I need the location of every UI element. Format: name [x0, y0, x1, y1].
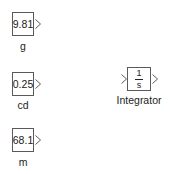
- block-label-cd[interactable]: cd: [17, 100, 28, 111]
- integrator-block[interactable]: 1 s: [127, 67, 151, 91]
- output-port-arrow-icon[interactable]: [35, 135, 41, 145]
- transfer-function: 1 s: [134, 69, 143, 90]
- model-canvas[interactable]: 9.81 g 0.25 cd 68.1 m 1 s Integrator: [0, 0, 173, 174]
- block-label-integrator[interactable]: Integrator: [117, 95, 162, 106]
- output-port-arrow-icon[interactable]: [35, 79, 41, 89]
- constant-block-m[interactable]: 68.1: [12, 128, 34, 152]
- output-port-arrow-icon[interactable]: [35, 19, 41, 29]
- constant-value-m: 68.1: [13, 135, 33, 146]
- block-label-g[interactable]: g: [20, 41, 26, 52]
- block-label-m[interactable]: m: [19, 157, 28, 168]
- constant-block-cd[interactable]: 0.25: [12, 72, 34, 96]
- integrator-numerator: 1: [134, 69, 143, 78]
- output-port-arrow-icon[interactable]: [152, 74, 158, 84]
- constant-block-g[interactable]: 9.81: [12, 12, 34, 36]
- constant-value-cd: 0.25: [13, 79, 33, 90]
- integrator-denominator: s: [137, 81, 142, 90]
- constant-value-g: 9.81: [13, 19, 33, 30]
